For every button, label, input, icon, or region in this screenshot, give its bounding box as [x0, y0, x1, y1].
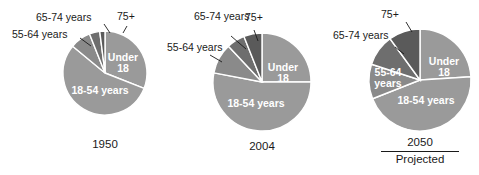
pie-chart-1950: Under 18 18-54 years [62, 30, 148, 116]
year-label-2004: 2004 [212, 140, 312, 152]
pie-2004-svg: Under 18 18-54 years [212, 32, 312, 132]
outside-label-65-74-2004: 65-74 years [194, 11, 249, 22]
outside-label-65-74-2050: 65-74 years [333, 30, 388, 41]
pie-2050-svg: Under 18 18-54 years 55-64 years [368, 28, 472, 132]
slice-label-55-64-line2: years [374, 77, 402, 89]
slice-label-18-54: 18-54 years [227, 97, 284, 109]
slice-label-18-54: 18-54 years [397, 94, 454, 106]
outside-label-75-plus-1950: 75+ [117, 11, 135, 22]
year-label-2050: 2050 [378, 136, 462, 148]
pie-chart-2004: Under 18 18-54 years [212, 32, 312, 132]
outside-label-65-74-1950: 65-74 years [36, 12, 91, 23]
pie-chart-2050: Under 18 18-54 years 55-64 years [368, 28, 472, 132]
slice-label-under-18-line2: 18 [277, 72, 289, 84]
outside-label-55-64-2004: 55-64 years [167, 42, 222, 53]
outside-label-75-plus-2004: 75+ [245, 12, 263, 23]
projected-divider-rule [381, 151, 459, 152]
slice-label-under-18-line2: 18 [438, 66, 450, 78]
projected-note-2050: Projected [378, 153, 462, 165]
year-label-1950: 1950 [62, 138, 148, 150]
pie-1950-svg: Under 18 18-54 years [62, 30, 148, 116]
outside-label-55-64-1950: 55-64 years [12, 29, 67, 40]
slice-label-under-18-line2: 18 [117, 62, 129, 74]
slice-label-18-54: 18-54 years [71, 84, 128, 96]
outside-label-75-plus-2050: 75+ [381, 9, 399, 20]
pie-chart-figure: Under 18 18-54 years 65-74 years 55-64 y… [0, 0, 479, 175]
